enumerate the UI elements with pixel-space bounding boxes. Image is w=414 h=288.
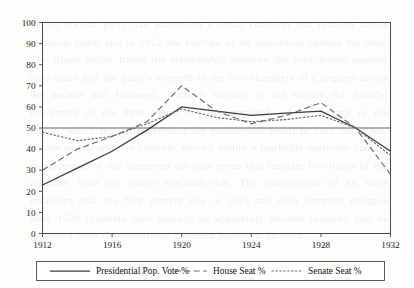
x-axis-ticks: 191219161920192419281932 — [33, 234, 400, 250]
x-tick-label: 1924 — [242, 240, 261, 250]
chart-figure: 0102030405060708090100 19121916192019241… — [0, 0, 414, 288]
legend-label-1: House Seat % — [213, 266, 266, 276]
y-tick-label: 30 — [26, 165, 36, 175]
x-tick-label: 1932 — [381, 240, 400, 250]
y-tick-label: 100 — [22, 18, 36, 28]
series-line-1 — [43, 86, 391, 175]
y-tick-label: 40 — [26, 144, 36, 154]
y-axis-ticks: 0102030405060708090100 — [22, 18, 43, 239]
chart-legend: Presidential Pop. Vote %House Seat %Sena… — [37, 262, 385, 281]
legend-label-2: Senate Seat % — [308, 266, 362, 276]
x-tick-label: 1912 — [33, 240, 52, 250]
x-tick-label: 1920 — [173, 240, 192, 250]
y-tick-label: 60 — [26, 102, 36, 112]
series-line-0 — [43, 107, 391, 185]
y-tick-label: 70 — [26, 81, 36, 91]
y-tick-label: 0 — [31, 229, 36, 239]
y-tick-label: 50 — [26, 123, 36, 133]
series-group — [43, 86, 391, 185]
y-tick-label: 80 — [26, 60, 36, 70]
y-tick-label: 90 — [26, 39, 36, 49]
y-tick-label: 20 — [26, 187, 36, 197]
x-tick-label: 1928 — [312, 240, 331, 250]
y-tick-label: 10 — [26, 208, 36, 218]
x-tick-label: 1916 — [103, 240, 122, 250]
